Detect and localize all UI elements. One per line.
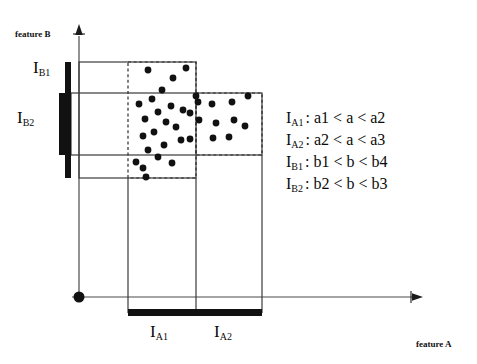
scatter-point [136, 101, 143, 108]
interval-label-IA1: IA1 [150, 322, 168, 342]
legend-expression: : a1 < a < a2 [304, 109, 386, 126]
legend-symbol: IA2 [286, 131, 304, 148]
interval-label-IB1: IB1 [33, 58, 50, 78]
figure-canvas [0, 0, 477, 364]
interval-legend: IA1: a1 < a < a2 IA2: a2 < a < a3 IB1: b… [286, 110, 388, 192]
scatter-point [133, 159, 140, 166]
scatter-point [229, 99, 236, 106]
scatter-point [226, 134, 233, 141]
interval-label-IA1-sub: A1 [156, 331, 168, 342]
legend-symbol-sub: B2 [291, 183, 303, 194]
scatter-point [170, 75, 177, 82]
scatter-point [183, 65, 190, 72]
scatter-point [155, 109, 162, 116]
scatter-point [180, 107, 187, 114]
legend-expression: : b2 < b < b3 [303, 175, 388, 192]
scatter-points-group [133, 65, 252, 181]
scatter-point [245, 93, 252, 100]
legend-symbol-sub: A1 [291, 117, 303, 128]
legend-symbol-sub: B1 [291, 161, 303, 172]
scatter-point [168, 103, 175, 110]
interval-label-IA1-base: I [150, 322, 156, 341]
legend-expression: : b1 < b < b4 [303, 153, 388, 170]
legend-row: IB2: b2 < b < b3 [286, 176, 388, 192]
scatter-point [140, 165, 147, 172]
scatter-point [155, 154, 162, 161]
scatter-point [195, 99, 202, 106]
interval-bar-IA [128, 309, 262, 316]
scatter-point [149, 96, 156, 103]
x-axis-label: feature A [416, 339, 452, 349]
scatter-point [163, 119, 170, 126]
feature-interval-figure: feature B feature A IB1 IB2 IA1 IA2 IA1:… [0, 0, 477, 364]
scatter-point [151, 129, 158, 136]
scatter-point [169, 160, 176, 167]
scatter-point [142, 116, 149, 123]
scatter-point [231, 117, 238, 124]
scatter-point [193, 93, 200, 100]
legend-symbol: IB1 [286, 153, 303, 170]
scatter-point [187, 136, 194, 143]
legend-row: IB1: b1 < b < b4 [286, 154, 388, 170]
legend-symbol: IA1 [286, 109, 304, 126]
scatter-point [145, 147, 152, 154]
scatter-point [173, 124, 180, 131]
interval-label-IB1-sub: B1 [39, 67, 51, 78]
scatter-point [196, 117, 203, 124]
scatter-point [143, 174, 150, 181]
interval-label-IA2-base: I [214, 322, 220, 341]
origin-dot-icon [74, 292, 85, 303]
scatter-point [213, 120, 220, 127]
interval-bar-IB2 [59, 93, 65, 155]
scatter-point [161, 142, 168, 149]
interval-label-IB2: IB2 [17, 108, 34, 128]
scatter-point [159, 87, 166, 94]
legend-symbol-sub: A2 [291, 139, 303, 150]
scatter-point [145, 67, 152, 74]
interval-bar-IB1 [65, 62, 71, 178]
scatter-point [140, 133, 147, 140]
scatter-point [178, 137, 185, 144]
interval-label-IB2-base: I [17, 108, 23, 127]
legend-row: IA2: a2 < a < a3 [286, 132, 388, 148]
interval-label-IB2-sub: B2 [23, 117, 35, 128]
y-axis-label: feature B [15, 29, 51, 39]
scatter-point [210, 135, 217, 142]
scatter-point [242, 123, 249, 130]
interval-label-IA2: IA2 [214, 322, 232, 342]
y-axis-arrow-icon [75, 24, 83, 35]
interval-label-IA2-sub: A2 [220, 331, 232, 342]
interval-label-IB1-base: I [33, 58, 39, 77]
legend-symbol: IB2 [286, 175, 303, 192]
legend-row: IA1: a1 < a < a2 [286, 110, 388, 126]
scatter-point [187, 110, 194, 117]
scatter-point [209, 101, 216, 108]
legend-expression: : a2 < a < a3 [304, 131, 386, 148]
x-axis-arrow-icon [412, 293, 423, 301]
